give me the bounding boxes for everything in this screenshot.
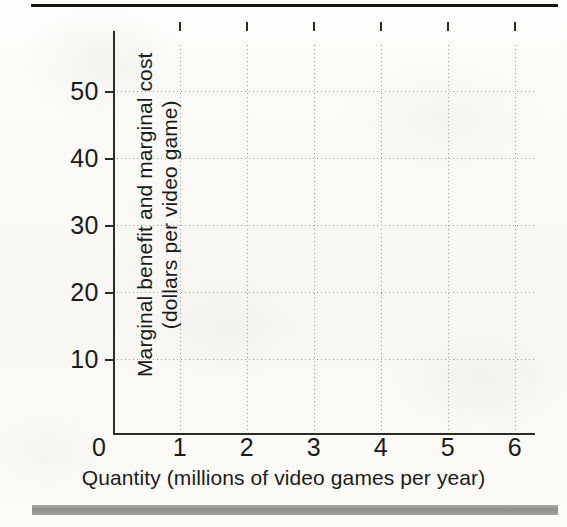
x-tick-2 [246,22,248,31]
gridline-vertical-5 [448,45,449,433]
x-tick-4 [380,22,382,31]
figure-page: 50 40 30 20 10 1 2 3 4 5 6 0 [0,0,567,527]
x-tick-label-1: 1 [173,435,187,460]
y-tick-40 [105,158,114,160]
y-axis-title-line-2: (dollars per video game) [158,15,183,415]
y-tick-30 [105,225,114,227]
y-tick-label-10: 10 [70,347,99,372]
gridline-vertical-4 [381,45,382,433]
y-axis-title: Marginal benefit and marginal cost (doll… [133,15,183,415]
x-tick-label-2: 2 [240,435,254,460]
x-tick-3 [313,22,315,31]
bottom-divider-bar [32,505,558,515]
y-tick-label-20: 20 [70,280,99,305]
y-tick-20 [105,292,114,294]
x-tick-label-4: 4 [374,435,388,460]
x-tick-label-6: 6 [508,435,522,460]
y-axis-title-line-1: Marginal benefit and marginal cost [133,15,158,415]
x-tick-label-3: 3 [307,435,321,460]
y-tick-label-50: 50 [70,79,99,104]
x-axis-title: Quantity (millions of video games per ye… [0,466,567,490]
gridline-vertical-2 [247,45,248,433]
gridline-vertical-6 [515,45,516,433]
origin-tick-label: 0 [92,435,106,460]
y-tick-10 [105,359,114,361]
x-tick-6 [514,22,516,31]
gridline-vertical-3 [314,45,315,433]
top-divider-rule [31,4,558,7]
x-tick-5 [447,22,449,31]
y-tick-label-40: 40 [70,146,99,171]
y-tick-50 [105,91,114,93]
y-tick-label-30: 30 [70,213,99,238]
x-tick-label-5: 5 [441,435,455,460]
